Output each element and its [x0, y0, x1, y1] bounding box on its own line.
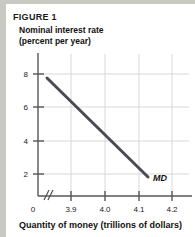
x-axis-title: Quantity of money (trillions of dollars)	[6, 220, 195, 230]
y-tick-label-6: 6	[24, 103, 29, 112]
money-demand-curve-label: MD	[153, 173, 167, 183]
x-tick-label-4-2: 4.2	[166, 205, 178, 214]
y-tick-label-4: 4	[24, 137, 29, 146]
chart-plot-area: 8 6 4 2 0 3.9 4.0 4.1 4.2 MD	[6, 4, 195, 237]
y-tick-label-2: 2	[24, 170, 29, 179]
x-tick-label-4-0: 4.0	[99, 205, 111, 214]
axis-break-icon	[44, 190, 53, 200]
money-demand-curve	[47, 78, 148, 177]
gridlines-horizontal	[38, 74, 189, 174]
x-origin-label: 0	[31, 205, 36, 214]
y-tick-label-8: 8	[24, 70, 29, 79]
x-tick-label-3-9: 3.9	[65, 205, 77, 214]
figure-panel: FIGURE 1 Nominal interest rate (percent …	[6, 4, 195, 237]
x-tick-label-4-1: 4.1	[133, 205, 145, 214]
